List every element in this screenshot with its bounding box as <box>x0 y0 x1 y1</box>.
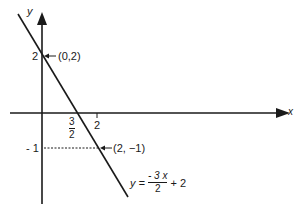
equation-denominator: 2 <box>155 184 161 194</box>
x-tick-two-label: 2 <box>94 120 100 131</box>
y-tick-two: 2 <box>32 51 38 62</box>
x-tick-three-halves: 3 2 <box>69 117 75 140</box>
equation-tail: + 2 <box>170 177 186 189</box>
function-line <box>18 14 128 197</box>
equation-label: y = - 3 x 2 + 2 <box>130 171 186 194</box>
point-label-2-neg1: (2, −1) <box>113 143 145 154</box>
y-axis-arrow-icon <box>37 12 47 25</box>
y-tick-neg-one: - 1 <box>26 143 39 154</box>
y-axis-label: y <box>27 6 33 17</box>
equation-numerator: - 3 x <box>148 171 167 181</box>
point-label-0-2: (0,2) <box>58 51 81 62</box>
frac-den: 2 <box>69 130 75 140</box>
x-axis-label: x <box>288 107 293 117</box>
frac-num: 3 <box>69 117 75 127</box>
arrow-left-icon <box>100 146 105 151</box>
graph-diagram: y x 2 (0,2) 3 2 2 - 1 (2, −1) y = - 3 x … <box>0 0 296 213</box>
equation-lhs: y = <box>130 177 145 189</box>
equation-fraction: - 3 x 2 <box>148 171 167 194</box>
